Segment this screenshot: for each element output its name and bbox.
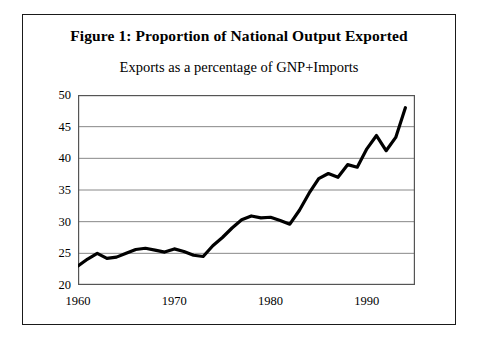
x-tick-1970: 1970: [144, 295, 204, 308]
figure-frame: Figure 1: Proportion of National Output …: [22, 14, 456, 325]
y-tick-25: 25: [31, 247, 71, 260]
data-series-line: [78, 108, 405, 266]
y-tick-35: 35: [31, 184, 71, 197]
x-tick-1990: 1990: [337, 295, 397, 308]
x-tick-1980: 1980: [241, 295, 301, 308]
y-tick-30: 30: [31, 216, 71, 229]
line-chart: [78, 95, 415, 285]
y-tick-50: 50: [31, 89, 71, 102]
plot-area: [78, 95, 415, 285]
y-tick-45: 45: [31, 121, 71, 134]
y-tick-40: 40: [31, 152, 71, 165]
figure-subtitle: Exports as a percentage of GNP+Imports: [23, 59, 455, 76]
gridlines: [78, 127, 415, 254]
figure-title: Figure 1: Proportion of National Output …: [23, 27, 455, 45]
x-tick-1960: 1960: [48, 295, 108, 308]
y-tick-20: 20: [31, 279, 71, 292]
